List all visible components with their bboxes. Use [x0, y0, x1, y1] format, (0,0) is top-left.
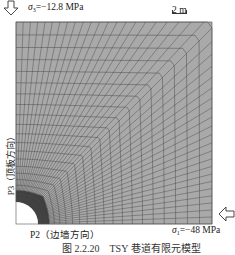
left-axis-label: P3（顶板方向） [4, 121, 17, 207]
scale-bar: 2 m [172, 5, 187, 15]
top-load-value: =−12.8 MPa [36, 2, 84, 12]
right-load-value: =−48 MPa [180, 225, 221, 235]
top-load-label: σ3=−12.8 MPa [28, 2, 83, 13]
bottom-axis-label: P2（边墙方向） [30, 227, 100, 241]
right-load-label: σ1=−48 MPa [172, 225, 220, 236]
figure-caption: 图 2.2.20 TSY 巷道有限元模型 [62, 240, 201, 255]
scale-bar-line [172, 10, 187, 14]
